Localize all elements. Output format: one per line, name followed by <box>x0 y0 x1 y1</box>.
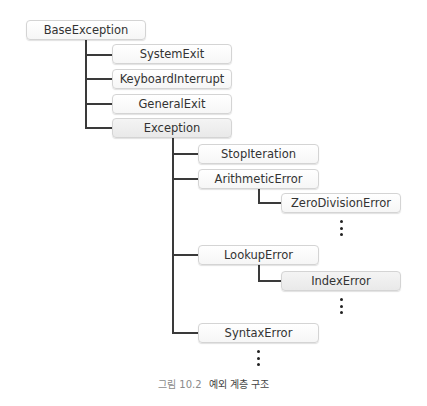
connector-stop-iteration <box>172 153 198 155</box>
node-base-exception: BaseException <box>26 20 146 40</box>
connector-keyboard-interrupt <box>85 78 112 80</box>
connector-index-error <box>258 280 281 282</box>
node-lookup-error: LookupError <box>198 245 319 265</box>
connector-lookup-error <box>172 254 198 256</box>
connector-exception-vertical <box>172 138 174 333</box>
node-zero-division-error: ZeroDivisionError <box>281 193 401 213</box>
figure-caption: 그림 10.2예외 계층 구조 <box>0 376 427 391</box>
node-general-exit: GeneralExit <box>112 94 232 114</box>
connector-lookup-vertical <box>258 264 260 281</box>
connector-arithmetic-vertical <box>258 188 260 203</box>
connector-syntax-error <box>172 332 198 334</box>
figure-number: 그림 10.2 <box>158 379 201 390</box>
node-stop-iteration: StopIteration <box>198 144 319 164</box>
node-arithmetic-error: ArithmeticError <box>198 169 319 189</box>
connector-system-exit <box>85 54 112 56</box>
connector-zero-division-error <box>258 202 281 204</box>
node-syntax-error: SyntaxError <box>198 323 319 343</box>
ellipsis-exception-children <box>257 350 260 370</box>
node-system-exit: SystemExit <box>112 44 232 64</box>
node-index-error: IndexError <box>281 271 401 291</box>
figure-title: 예외 계층 구조 <box>209 379 269 390</box>
ellipsis-arithmetic-children <box>340 220 343 240</box>
ellipsis-lookup-children <box>340 298 343 318</box>
node-exception: Exception <box>112 118 232 138</box>
connector-exception <box>85 127 112 129</box>
connector-arithmetic-error <box>172 178 198 180</box>
connector-general-exit <box>85 103 112 105</box>
node-keyboard-interrupt: KeyboardInterrupt <box>112 69 232 89</box>
